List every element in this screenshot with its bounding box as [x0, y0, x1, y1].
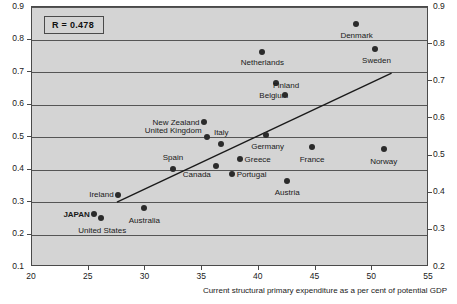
y-axis-right-tick-label: 0.4 — [433, 186, 445, 196]
gridline — [32, 7, 427, 8]
x-axis-tick-mark — [88, 266, 89, 270]
y-axis-left-tick-label: 0.3 — [12, 196, 24, 206]
y-axis-left-tick-mark — [27, 234, 31, 235]
y-axis-right-tick-label: 0.7 — [433, 75, 445, 85]
data-point-label: Greece — [245, 155, 271, 164]
data-point-label: France — [300, 155, 325, 164]
x-axis-tick-label: 55 — [423, 271, 432, 281]
y-axis-left-tick-mark — [27, 104, 31, 105]
gridline — [32, 202, 427, 203]
data-point — [237, 156, 243, 162]
data-point — [284, 178, 290, 184]
data-point — [309, 144, 315, 150]
data-point — [141, 205, 147, 211]
y-axis-right-tick-mark — [428, 155, 432, 156]
y-axis-right-tick-mark — [428, 229, 432, 230]
y-axis-left-tick-label: 0.8 — [12, 33, 24, 43]
data-point-label: Norway — [370, 157, 397, 166]
x-axis-tick-label: 25 — [83, 271, 92, 281]
data-point — [229, 171, 235, 177]
data-point-label: Finland — [273, 81, 299, 90]
data-point — [259, 49, 265, 55]
y-axis-right-tick-label: 0.2 — [433, 261, 445, 271]
y-axis-right-tick-mark — [428, 117, 432, 118]
y-axis-left-tick-label: 0.5 — [12, 131, 24, 141]
correlation-annotation: R = 0.478 — [44, 16, 104, 34]
y-axis-left-tick-label: 0.1 — [12, 261, 24, 271]
x-axis-tick-mark — [201, 266, 202, 270]
data-point — [372, 46, 378, 52]
gridline — [32, 72, 427, 73]
data-point-label: Austria — [275, 188, 300, 197]
y-axis-right-tick-label: 0.6 — [433, 112, 445, 122]
y-axis-right-tick-label: 0.3 — [433, 223, 445, 233]
data-point — [201, 119, 207, 125]
data-point-label: Portugal — [237, 170, 267, 179]
x-axis-tick-label: 35 — [196, 271, 205, 281]
data-point-label: Australia — [129, 216, 160, 225]
data-point — [98, 215, 104, 221]
y-axis-left-tick-label: 0.6 — [12, 98, 24, 108]
data-point-label: Germany — [251, 142, 284, 151]
y-axis-right-tick-label: 0.8 — [433, 38, 445, 48]
y-axis-left-tick-mark — [27, 71, 31, 72]
x-axis-tick-mark — [144, 266, 145, 270]
y-axis-left-tick-label: 0.7 — [12, 66, 24, 76]
y-axis-left-tick-mark — [27, 39, 31, 40]
y-axis-left-tick-label: 0.2 — [12, 228, 24, 238]
x-axis-tick-label: 45 — [310, 271, 319, 281]
gridline — [32, 137, 427, 138]
data-point — [381, 146, 387, 152]
x-axis-tick-label: 40 — [253, 271, 262, 281]
y-axis-right-tick-label: 0.9 — [433, 1, 445, 11]
data-point-label: Canada — [183, 170, 211, 179]
data-point-label: Italy — [214, 128, 229, 137]
y-axis-left-tick-label: 0.9 — [12, 1, 24, 11]
data-point-label: Ireland — [89, 190, 113, 199]
gridline — [32, 105, 427, 106]
data-point — [170, 166, 176, 172]
y-axis-left-tick-label: 0.4 — [12, 163, 24, 173]
data-point-label: Sweden — [362, 56, 391, 65]
y-axis-right-tick-mark — [428, 43, 432, 44]
y-axis-left-tick-mark — [27, 136, 31, 137]
x-axis-tick-label: 20 — [26, 271, 35, 281]
x-axis-tick-label: 30 — [140, 271, 149, 281]
x-axis-tick-label: 50 — [367, 271, 376, 281]
y-axis-right-tick-label: 0.5 — [433, 149, 445, 159]
y-axis-left-tick-mark — [27, 169, 31, 170]
data-point — [353, 21, 359, 27]
data-point — [204, 134, 210, 140]
gridline — [32, 235, 427, 236]
x-axis-title: Current structural primary expenditure a… — [203, 286, 447, 295]
scatter-chart-figure: JAPANUnited StatesIrelandAustraliaSpainN… — [0, 0, 457, 304]
data-point-label: United Kingdom — [145, 126, 202, 135]
plot-area: JAPANUnited StatesIrelandAustraliaSpainN… — [31, 6, 428, 266]
data-point — [213, 163, 219, 169]
y-axis-right-tick-mark — [428, 80, 432, 81]
data-point-label: Denmark — [340, 31, 372, 40]
y-axis-right-tick-mark — [428, 192, 432, 193]
data-point-label: United States — [78, 226, 126, 235]
data-point-label: Netherlands — [241, 58, 284, 67]
data-point — [263, 132, 269, 138]
x-axis-tick-mark — [258, 266, 259, 270]
data-point-label: Spain — [163, 153, 183, 162]
data-point — [115, 192, 121, 198]
x-axis-tick-mark — [371, 266, 372, 270]
data-point — [91, 211, 97, 217]
data-point-label: JAPAN — [63, 210, 90, 219]
y-axis-left-tick-mark — [27, 201, 31, 202]
data-point — [218, 141, 224, 147]
x-axis-tick-mark — [315, 266, 316, 270]
